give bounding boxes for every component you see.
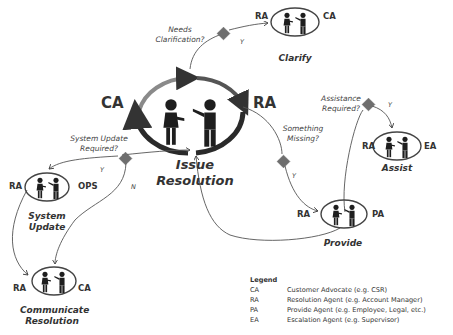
communicate-right-role: CA	[78, 283, 91, 293]
legend-row: PA Provide Agent (e.g. Employee, Legal, …	[250, 305, 426, 315]
no-label-system-update: N	[131, 183, 136, 191]
yes-label-clarification: Y	[240, 38, 244, 46]
yes-label-something-missing: Y	[292, 172, 296, 180]
system-update-right-role: OPS	[78, 181, 98, 191]
question-something-missing: Something Missing?	[278, 124, 328, 144]
legend-desc: Customer Advocate (e.g. CSR)	[287, 285, 387, 295]
system-update-node-name: System Update	[22, 211, 72, 233]
question-assistance: Assistance Required?	[318, 94, 364, 114]
assist-node-ring	[373, 132, 421, 160]
clarify-node-ring	[271, 8, 319, 36]
center-title: Issue Resolution	[155, 157, 235, 189]
diamond-assistance-icon	[362, 98, 375, 111]
legend-row: RA Resolution Agent (e.g. Account Manage…	[250, 295, 426, 305]
person-icon	[37, 178, 46, 198]
issue-resolution-ring	[136, 78, 243, 153]
system-update-left-role: RA	[9, 181, 22, 191]
communicate-resolution-node-ring	[32, 267, 76, 295]
person-icon	[344, 205, 354, 226]
assist-node-name: Assist	[372, 163, 422, 174]
legend-row: EA Escalation Agent (e.g. Supervisor)	[250, 315, 426, 325]
legend-abbr: CA	[250, 285, 287, 295]
clarify-right-role: CA	[323, 11, 336, 21]
provide-node-name: Provide	[318, 238, 368, 249]
clarify-left-role: RA	[255, 11, 268, 21]
yes-label-system-update: Y	[100, 166, 104, 174]
diamond-clarification-icon	[217, 27, 230, 40]
person-icon	[54, 272, 64, 293]
person-icon	[42, 272, 51, 292]
legend: Legend CA Customer Advocate (e.g. CSR) R…	[250, 276, 426, 325]
legend-desc: Provide Agent (e.g. Employee, Legal, etc…	[287, 305, 426, 315]
legend-abbr: EA	[250, 315, 287, 325]
communicate-left-role: RA	[13, 283, 26, 293]
legend-title: Legend	[250, 276, 426, 284]
assist-left-role: RA	[362, 141, 375, 151]
legend-abbr: PA	[250, 305, 287, 315]
system-update-node-ring	[25, 173, 69, 201]
center-title-line1: Issue	[155, 157, 235, 173]
resolution-agent-figure-icon	[193, 99, 216, 147]
diamond-something-missing-icon	[277, 155, 290, 168]
question-clarification: Needs Clarification?	[150, 25, 210, 45]
center-left-role: CA	[101, 94, 124, 112]
person-icon	[284, 13, 293, 33]
communicate-node-name: Communicate Resolution	[20, 305, 84, 327]
person-icon	[48, 178, 58, 199]
legend-row: CA Customer Advocate (e.g. CSR)	[250, 285, 426, 295]
person-icon	[333, 205, 342, 225]
person-icon	[295, 13, 305, 34]
assist-right-role: EA	[424, 141, 436, 151]
yes-label-assistance: Y	[388, 101, 392, 109]
person-icon	[397, 137, 407, 158]
customer-advocate-figure-icon	[163, 99, 184, 145]
question-system-update: System Update Required?	[68, 134, 130, 154]
person-icon	[386, 137, 395, 157]
legend-abbr: RA	[250, 295, 287, 305]
provide-left-role: RA	[297, 209, 310, 219]
provide-right-role: PA	[372, 209, 384, 219]
legend-desc: Escalation Agent (e.g. Supervisor)	[287, 315, 399, 325]
center-title-line2: Resolution	[155, 173, 235, 189]
center-right-role: RA	[253, 94, 276, 112]
legend-desc: Resolution Agent (e.g. Account Manager)	[287, 295, 422, 305]
clarify-node-name: Clarify	[270, 53, 320, 64]
